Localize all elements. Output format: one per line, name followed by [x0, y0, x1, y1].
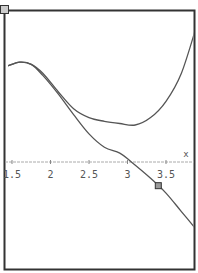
series-line-curve-2	[8, 62, 197, 230]
series-line-curve-1	[8, 25, 197, 125]
x-axis-label: x	[183, 149, 189, 159]
x-tick-label: 3.5	[157, 169, 175, 180]
corner-box-icon[interactable]	[1, 6, 9, 14]
graph-canvas: 1.522.533.5x	[0, 0, 198, 273]
x-tick-label: 1.5	[3, 169, 21, 180]
trace-cursor-icon[interactable]	[155, 183, 161, 189]
x-tick-label: 3	[124, 169, 130, 180]
plot-frame	[5, 11, 195, 270]
x-tick-label: 2	[47, 169, 53, 180]
x-tick-label: 2.5	[80, 169, 98, 180]
